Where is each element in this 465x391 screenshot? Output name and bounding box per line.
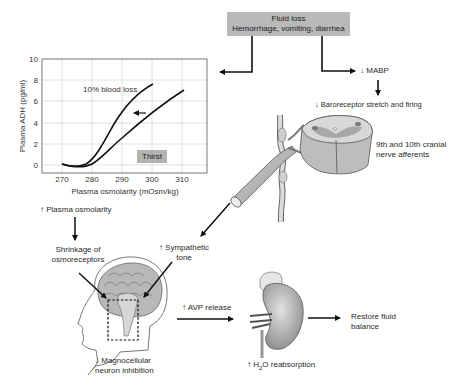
- adh-osmolarity-chart: 1086 420 270280290 300310 Plasma osmolar…: [0, 48, 225, 198]
- mabp-label: ↓ MABP: [360, 66, 389, 76]
- arrow-to-sympathetic: [201, 203, 230, 236]
- x-tick-labels: 270280290 300310: [55, 175, 189, 184]
- svg-text:2: 2: [34, 140, 39, 149]
- thirst-label: Thirst: [142, 152, 163, 161]
- svg-text:290: 290: [115, 175, 129, 184]
- svg-text:270: 270: [55, 175, 69, 184]
- sympathetic-tone-label: ↑ Sympathetic tone: [156, 243, 212, 263]
- svg-text:8: 8: [34, 76, 39, 85]
- blood-loss-annotation: 10% blood loss: [83, 85, 137, 94]
- y-tick-labels: 1086 420: [29, 55, 38, 170]
- fluid-loss-causes: Hemorrhage, vomiting, diarrhea: [227, 24, 350, 34]
- svg-text:300: 300: [145, 175, 159, 184]
- baroreceptor-label: ↓ Baroreceptor stretch and firing: [315, 100, 422, 110]
- fluid-loss-title: Fluid loss: [227, 14, 350, 24]
- svg-text:310: 310: [175, 175, 189, 184]
- svg-text:0: 0: [34, 161, 39, 170]
- svg-text:10: 10: [29, 55, 38, 64]
- magnocellular-label: ↓ Magnocellular neuron inhibition: [95, 356, 154, 376]
- svg-text:6: 6: [34, 97, 39, 106]
- spinal-cord-illustration: [300, 116, 372, 174]
- restore-fluid-balance-label: Restore fluid balance: [351, 312, 396, 332]
- kidney-illustration: [250, 272, 303, 358]
- svg-text:280: 280: [85, 175, 99, 184]
- carotid-vessel-illustration: [229, 115, 308, 222]
- y-axis-label: Plasma ADH (pg/ml): [18, 79, 27, 152]
- avp-release-label: ↑ AVP release: [182, 303, 232, 313]
- plasma-osmolarity-label: ↑ Plasma osmolarity: [40, 205, 112, 215]
- x-axis-label: Plasma osmolarity (mOsm/kg): [71, 187, 178, 196]
- chart-gridlines: [42, 59, 207, 173]
- cranial-afferents-label: 9th and 10th cranial nerve afferents: [376, 140, 446, 160]
- fluid-loss-box: Fluid loss Hemorrhage, vomiting, diarrhe…: [227, 12, 350, 36]
- shrinkage-osmoreceptors-label: Shrinkage of osmoreceptors: [48, 245, 108, 265]
- h2o-reabsorption-label: ↑ H2O reabsorption: [247, 360, 315, 373]
- svg-text:4: 4: [34, 119, 39, 128]
